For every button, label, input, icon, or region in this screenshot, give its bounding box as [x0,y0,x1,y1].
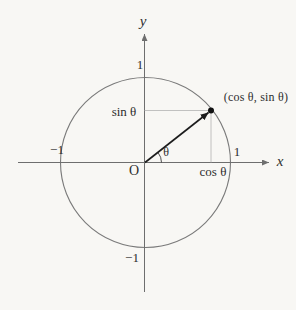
sin-theta-label: sin θ [112,105,137,118]
theta-angle-arc [158,153,161,163]
origin-label: O [129,164,139,178]
tick-label-one-top: 1 [137,58,144,71]
tick-label-minus-one-left: −1 [50,143,64,156]
theta-label: θ [163,146,169,158]
cos-theta-label: cos θ [200,165,227,178]
unit-circle-diagram [0,0,296,310]
tick-label-minus-one-bottom: −1 [125,251,139,264]
radius-vector [145,113,209,163]
x-axis-label: x [277,154,284,169]
point-marker [208,108,214,114]
y-axis-label: y [140,14,147,29]
point-coordinates-label: (cos θ, sin θ) [224,91,288,103]
tick-label-one-right: 1 [234,145,241,158]
unit-circle-figure: y x 1 1 −1 −1 O θ sin θ cos θ (cos θ, si… [0,0,296,310]
